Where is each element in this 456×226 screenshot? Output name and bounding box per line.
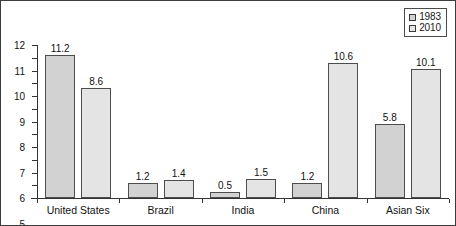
bar-value-label: 8.6 (89, 76, 103, 87)
y-axis-tick: 1 (32, 185, 37, 186)
y-axis-tick-label: 10 (14, 91, 25, 102)
bar-2010-brazil: 1.4 (164, 180, 194, 198)
y-axis-tick: 8 (32, 96, 37, 97)
legend-label-2010: 2010 (419, 23, 441, 33)
y-axis-tick-label: 6 (19, 193, 25, 204)
bar-value-label: 11.2 (51, 43, 70, 54)
y-axis-tick: 3 (32, 160, 37, 161)
y-axis-tick: 9 (32, 83, 37, 84)
y-axis-tick: 2 (32, 173, 37, 174)
x-axis-tick (367, 199, 368, 203)
y-axis-tick: 4 (32, 147, 37, 148)
bar-2010-china: 10.6 (328, 63, 358, 198)
bar-1983-asian-six: 5.8 (375, 124, 405, 198)
bar-1983-united-states: 11.2 (45, 55, 75, 198)
bar-1983-china: 1.2 (292, 183, 322, 198)
y-axis-tick: 11 (32, 58, 37, 59)
legend-entry-2010: 2010 (409, 23, 441, 33)
bar-2010-asian-six: 10.1 (411, 69, 441, 198)
y-axis-tick: 7 (32, 109, 37, 110)
y-axis-line (37, 45, 38, 199)
bar-value-label: 1.5 (254, 167, 268, 178)
legend-label-1983: 1983 (419, 12, 441, 22)
y-axis-tick: 6 (32, 122, 37, 123)
bar-value-label: 10.1 (416, 57, 435, 68)
y-axis-tick-label: 11 (15, 65, 25, 76)
bar-value-label: 1.2 (300, 171, 314, 182)
bar-value-label: 1.4 (172, 168, 186, 179)
bar-value-label: 0.5 (218, 180, 232, 191)
legend-entry-1983: 1983 (409, 12, 441, 22)
y-axis-tick-label: 9 (19, 116, 25, 127)
bar-chart-figure: 1983 2010 0123456789101112 11.28.61.21.4… (0, 0, 456, 226)
y-axis-tick-label: 7 (19, 167, 25, 178)
x-axis-tick (284, 199, 285, 203)
category-label-asian-six: Asian Six (386, 204, 430, 216)
x-axis-tick (202, 199, 203, 203)
x-axis-line (31, 198, 449, 199)
bar-value-label: 1.2 (136, 171, 150, 182)
bar-1983-brazil: 1.2 (128, 183, 158, 198)
x-axis-tick (449, 199, 450, 203)
y-axis-tick: 12 (32, 45, 37, 46)
category-label-brazil: Brazil (147, 204, 173, 216)
y-axis-tick-label: 5 (19, 218, 25, 226)
legend-swatch-2010 (409, 25, 416, 32)
bar-2010-india: 1.5 (246, 179, 276, 198)
y-axis-tick-label: 12 (14, 40, 25, 51)
bar-1983-india: 0.5 (210, 192, 240, 198)
x-axis-tick (119, 199, 120, 203)
y-axis-tick: 5 (32, 134, 37, 135)
chart-legend: 1983 2010 (404, 8, 447, 37)
category-label-china: China (312, 204, 339, 216)
category-label-india: India (232, 204, 255, 216)
bar-value-label: 10.6 (334, 51, 353, 62)
plot-area: 0123456789101112 11.28.61.21.40.51.51.21… (37, 45, 449, 199)
y-axis-tick-label: 8 (19, 142, 25, 153)
legend-swatch-1983 (409, 14, 416, 21)
category-label-united-states: United States (47, 204, 110, 216)
bar-value-label: 5.8 (383, 112, 397, 123)
y-axis-tick: 10 (32, 71, 37, 72)
bar-2010-united-states: 8.6 (81, 88, 111, 198)
x-axis-tick (37, 199, 38, 203)
